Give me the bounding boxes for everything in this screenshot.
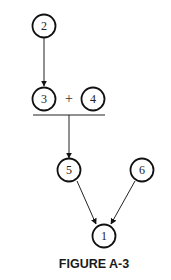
- edge-6-to-1: [111, 181, 135, 224]
- figure-caption: FIGURE A-3: [59, 257, 129, 271]
- node-6-label: 6: [139, 163, 145, 177]
- node-2: 2: [33, 15, 56, 38]
- node-3: 3: [33, 88, 56, 111]
- node-2-label: 2: [41, 19, 47, 33]
- node-6: 6: [131, 159, 154, 182]
- node-5-label: 5: [66, 163, 72, 177]
- edge-5-to-1: [77, 181, 96, 224]
- node-1: 1: [93, 225, 116, 248]
- node-1-label: 1: [101, 229, 107, 243]
- node-4: 4: [82, 88, 105, 111]
- plus-sign: +: [65, 91, 73, 106]
- diagram-canvas: 2 3 + 4 5 6 1 FIGURE A-3: [0, 0, 171, 280]
- node-3-label: 3: [41, 92, 47, 106]
- node-4-label: 4: [90, 92, 96, 106]
- node-5: 5: [58, 159, 81, 182]
